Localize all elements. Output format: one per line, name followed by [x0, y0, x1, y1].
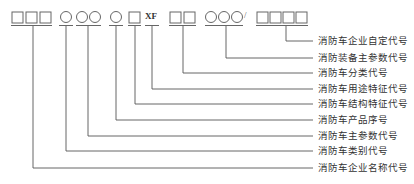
enterprise-custom-code-squares [256, 12, 308, 26]
label-enterprise-custom-code: 消防车企业自定代号 [318, 35, 408, 47]
enterprise-name-code-squares [11, 12, 52, 26]
slash-separator: / [244, 10, 247, 20]
label-main-parameter-code: 消防车主参数代号 [318, 130, 398, 142]
product-serial-circle [109, 12, 123, 26]
label-category-code: 消防车类别代号 [318, 145, 388, 157]
structure-feature-square [128, 12, 141, 26]
main-parameter-code-circles [76, 12, 101, 26]
leader-main-parameter [88, 26, 313, 136]
equipment-parameter-circles [205, 12, 243, 26]
leader-usage-feature [152, 26, 313, 89]
leader-category [66, 26, 313, 151]
leader-classification [183, 26, 313, 73]
classification-code-squares [169, 12, 196, 26]
category-code-circle [59, 12, 73, 26]
label-product-serial: 消防车产品序号 [318, 114, 388, 126]
leader-enterprise-name [33, 26, 313, 168]
leader-lines [33, 26, 313, 168]
label-structure-feature-code: 消防车结构特征代号 [318, 98, 408, 110]
leader-enterprise-custom [286, 26, 313, 41]
leader-equipment-parameter [226, 26, 313, 58]
label-usage-feature-code: 消防车用途特征代号 [318, 83, 408, 95]
label-classification-code: 消防车分类代号 [318, 67, 388, 79]
label-equipment-parameter-code: 消防装备主参数代号 [318, 52, 408, 64]
label-enterprise-name-code: 消防车企业名称代号 [318, 162, 408, 174]
xf-code-text: XF [145, 11, 157, 21]
